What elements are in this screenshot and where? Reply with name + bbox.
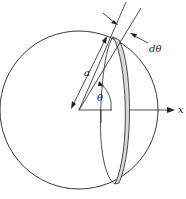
theta-label: θ	[97, 92, 103, 103]
theta-arrow-icon	[98, 81, 104, 86]
x-axis-label: x	[178, 104, 184, 115]
shaded-band	[113, 37, 130, 184]
radius-arrow-top-icon	[102, 36, 107, 44]
radius-line-2	[79, 8, 141, 110]
radius-label: a	[84, 67, 90, 78]
sphere-diagram: a θ dθ x	[0, 0, 186, 199]
slice-ellipse	[101, 37, 116, 184]
radius-arrow-bottom-icon	[71, 101, 76, 109]
dtheta-arrow-right-icon	[130, 33, 137, 38]
dtheta-label: dθ	[149, 43, 161, 54]
x-axis-arrow-icon	[167, 107, 175, 113]
